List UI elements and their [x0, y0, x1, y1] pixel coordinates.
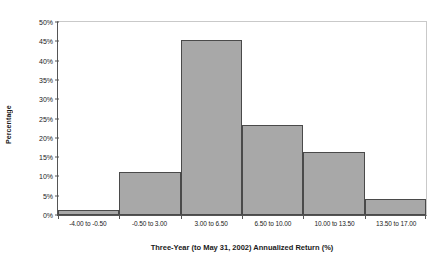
- bar-series: [58, 22, 426, 215]
- bar: [303, 152, 364, 215]
- y-axis-title: Percentage: [1, 85, 15, 165]
- x-axis-tick-label: 3.00 to 6.50: [180, 220, 242, 227]
- x-axis-tick-mark: [242, 215, 243, 219]
- bar-cell: [181, 22, 242, 215]
- x-axis-tick-label: 6.50 to 10.00: [242, 220, 304, 227]
- x-axis-tick-mark: [303, 215, 304, 219]
- x-axis-tick-label: 10.00 to 13.50: [304, 220, 366, 227]
- x-axis-title: Three-Year (to May 31, 2002) Annualized …: [57, 243, 427, 252]
- bar: [181, 40, 242, 215]
- bar-cell: [242, 22, 303, 215]
- bar: [58, 210, 119, 215]
- x-axis-tick-labels: -4.00 to -0.50-0.50 to 3.003.00 to 6.506…: [57, 220, 427, 227]
- x-axis-tick-label: -4.00 to -0.50: [57, 220, 119, 227]
- bar-cell: [119, 22, 180, 215]
- x-axis-tick-mark: [58, 215, 59, 219]
- x-axis-tick-mark: [181, 215, 182, 219]
- histogram-chart: Percentage 0%5%10%15%20%25%30%35%40%45%5…: [0, 0, 444, 266]
- bar: [242, 125, 303, 215]
- bar: [365, 199, 426, 215]
- x-axis-tick-mark: [425, 215, 426, 219]
- x-axis-tick-mark: [365, 215, 366, 219]
- x-axis-tick-label: 13.50 to 17.00: [365, 220, 427, 227]
- plot-area: 0%5%10%15%20%25%30%35%40%45%50%: [57, 21, 427, 216]
- bar-cell: [303, 22, 364, 215]
- bar-cell: [58, 22, 119, 215]
- bar: [119, 172, 180, 215]
- bar-cell: [365, 22, 426, 215]
- x-axis-tick-mark: [119, 215, 120, 219]
- x-axis-tick-label: -0.50 to 3.00: [119, 220, 181, 227]
